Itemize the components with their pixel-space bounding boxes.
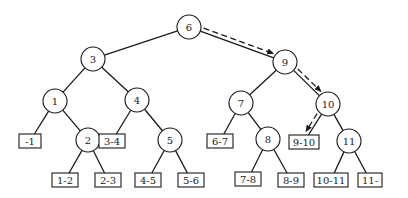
leaf-label: -1 [25, 136, 35, 147]
leaf-label: 10-11 [317, 175, 346, 186]
tree-node-10: 10 [316, 92, 340, 116]
edge-9-to-7 [250, 70, 276, 95]
leaf-interval--1: -1 [19, 134, 41, 148]
node-label: 7 [238, 98, 244, 109]
leaf-interval-9-10: 9-10 [289, 135, 319, 149]
leaf-interval-8-9: 8-9 [278, 173, 304, 187]
tree-node-6: 6 [177, 15, 201, 39]
leaf-label: 1-2 [57, 175, 73, 186]
edge-9-to-10 [294, 70, 320, 95]
edge-2-to-2-3 [93, 151, 104, 173]
edge-10-to-11 [334, 114, 343, 130]
edge-4-to-5 [145, 109, 163, 130]
edge-11-to-10-11 [334, 152, 344, 173]
leaf-label: 7-8 [240, 174, 256, 185]
leaf-interval-6-7: 6-7 [207, 134, 233, 148]
leaf-interval-7-8: 7-8 [235, 172, 261, 186]
leaf-label: 11- [362, 175, 378, 186]
leaf-interval-3-4: 3-4 [99, 134, 125, 148]
leaf-label: 4-5 [140, 175, 156, 186]
edge-5-to-5-6 [176, 151, 188, 173]
tree-diagram: 6391471025811-13-46-79-101-22-34-55-67-8… [0, 0, 408, 198]
search-arrow-10-to-9-10 [306, 114, 317, 131]
node-label: 11 [343, 136, 356, 147]
node-label: 10 [322, 99, 335, 110]
edge-11-to-11- [355, 152, 367, 173]
edge-8-to-7-8 [252, 150, 263, 172]
leaf-interval-10-11: 10-11 [314, 173, 348, 187]
edge-6-to-3 [104, 31, 177, 55]
search-arrow-9-to-10 [298, 69, 321, 91]
leaf-label: 8-9 [283, 175, 299, 186]
tree-node-4: 4 [125, 88, 149, 112]
tree-node-5: 5 [158, 128, 182, 152]
tree-node-7: 7 [229, 91, 253, 115]
leaf-interval-2-3: 2-3 [95, 173, 121, 187]
edge-1-to-2 [63, 110, 80, 131]
edge-8-to-8-9 [274, 149, 287, 173]
search-arrow-6-to-9 [204, 28, 274, 53]
tree-node-2: 2 [76, 128, 100, 152]
edge-5-to-4-5 [152, 151, 164, 173]
edge-4-to-3-4 [116, 110, 130, 134]
leaf-label: 9-10 [293, 137, 315, 148]
node-label: 9 [282, 57, 288, 68]
tree-node-8: 8 [256, 127, 280, 151]
edge-3-to-1 [63, 68, 85, 92]
leaf-label: 6-7 [212, 136, 228, 147]
node-label: 8 [265, 134, 271, 145]
leaf-label: 3-4 [104, 136, 120, 147]
nodes: 6391471025811-13-46-79-101-22-34-55-67-8… [19, 15, 382, 187]
leaf-label: 5-6 [183, 175, 199, 186]
leaf-interval-1-2: 1-2 [52, 173, 78, 187]
leaf-interval-5-6: 5-6 [178, 173, 204, 187]
edge-7-to-6-7 [224, 114, 235, 134]
node-label: 1 [52, 96, 58, 107]
tree-node-3: 3 [81, 47, 105, 71]
node-label: 5 [167, 135, 173, 146]
leaf-label: 2-3 [100, 175, 116, 186]
edge-2-to-1-2 [69, 150, 82, 173]
tree-node-11: 11 [337, 129, 361, 153]
tree-node-1: 1 [43, 89, 67, 113]
node-label: 6 [186, 22, 192, 33]
edge-7-to-8 [248, 113, 261, 130]
node-label: 2 [85, 135, 91, 146]
edge-1-to--1 [34, 111, 48, 134]
leaf-interval-11-: 11- [358, 173, 382, 187]
node-label: 4 [134, 95, 140, 106]
node-label: 3 [90, 54, 96, 65]
edge-3-to-4 [102, 67, 128, 92]
leaf-interval-4-5: 4-5 [135, 173, 161, 187]
tree-node-9: 9 [273, 50, 297, 74]
edge-6-to-9 [200, 31, 273, 58]
